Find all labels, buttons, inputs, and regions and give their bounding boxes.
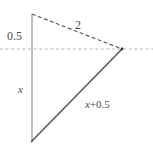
label-upper-side: 2 [75, 19, 81, 31]
right-vertex-point [121, 48, 124, 51]
geometry-figure: 0.5 2 x x+0.5 [0, 0, 153, 153]
label-lower-side: x+0.5 [85, 99, 110, 110]
label-lower-side-constant: +0.5 [90, 98, 110, 110]
label-lower-left-segment: x [18, 84, 23, 95]
lower-hypotenuse-line [31, 49, 122, 142]
label-upper-left-segment: 0.5 [7, 30, 22, 42]
